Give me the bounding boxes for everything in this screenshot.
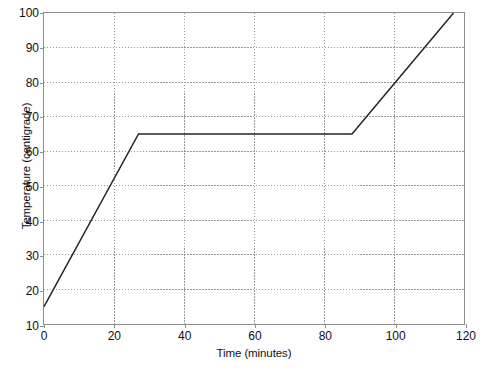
y-tick-label: 80 <box>26 76 39 90</box>
x-tick-mark <box>396 324 397 328</box>
x-tick-label: 60 <box>248 329 261 343</box>
x-tick-mark <box>185 324 186 328</box>
x-tick-label: 100 <box>386 329 406 343</box>
chart-figure: Temperature (centigrade) 102030405060708… <box>0 0 486 369</box>
x-tick-label: 0 <box>41 329 48 343</box>
data-series-layer <box>44 13 464 324</box>
y-tick-label: 40 <box>26 215 39 229</box>
y-tick-label: 60 <box>26 145 39 159</box>
y-tick-mark <box>40 48 44 49</box>
y-tick-mark <box>40 13 44 14</box>
y-tick-mark <box>40 83 44 84</box>
x-tick-mark <box>114 324 115 328</box>
x-tick-label: 20 <box>108 329 121 343</box>
y-tick-mark <box>40 152 44 153</box>
y-tick-mark <box>40 291 44 292</box>
plot-area: 102030405060708090100 020406080100120 <box>43 12 465 325</box>
y-tick-mark <box>40 187 44 188</box>
x-tick-mark <box>44 324 45 328</box>
y-tick-label: 50 <box>26 180 39 194</box>
y-tick-label: 10 <box>26 319 39 333</box>
x-tick-label: 80 <box>319 329 332 343</box>
y-tick-label: 100 <box>19 6 39 20</box>
y-tick-label: 20 <box>26 284 39 298</box>
x-axis-title: Time (minutes) <box>43 347 465 359</box>
y-tick-mark <box>40 117 44 118</box>
y-tick-mark <box>40 222 44 223</box>
y-tick-label: 90 <box>26 41 39 55</box>
y-tick-label: 30 <box>26 249 39 263</box>
y-tick-mark <box>40 256 44 257</box>
x-tick-mark <box>466 324 467 328</box>
y-axis-title: Temperature (centigrade) <box>20 66 32 266</box>
y-tick-label: 70 <box>26 110 39 124</box>
x-tick-mark <box>325 324 326 328</box>
x-tick-mark <box>255 324 256 328</box>
x-tick-label: 40 <box>178 329 191 343</box>
x-tick-label: 120 <box>456 329 476 343</box>
